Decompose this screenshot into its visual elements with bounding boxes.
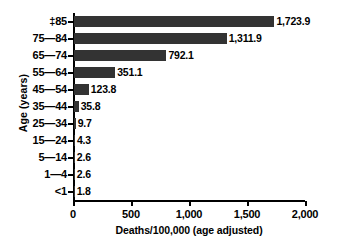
y-tick <box>68 191 73 193</box>
bar-value-label: 2.6 <box>77 149 91 166</box>
category-label: 25—34 <box>33 115 67 132</box>
y-tick <box>68 55 73 57</box>
category-label: 55—64 <box>33 64 67 81</box>
bar <box>74 50 166 61</box>
category-label: 45—54 <box>33 81 67 98</box>
category-label: ‡85 <box>49 13 67 30</box>
y-tick <box>68 106 73 108</box>
x-tick-label: 1,500 <box>234 208 261 220</box>
category-label: 65—74 <box>33 47 67 64</box>
bar <box>74 101 78 112</box>
bar <box>74 84 88 95</box>
bar <box>74 186 75 197</box>
bar-value-label: 1,723.9 <box>276 13 310 30</box>
y-axis-title: Age (years) <box>17 33 29 173</box>
y-tick <box>68 21 73 23</box>
x-tick <box>189 201 191 206</box>
bar-value-label: 1,311.9 <box>229 30 262 47</box>
bar-value-label: 1.8 <box>77 183 91 200</box>
category-label: 15—24 <box>33 132 67 149</box>
bar <box>74 135 75 146</box>
bar-value-label: 9.7 <box>78 115 92 132</box>
y-tick <box>68 38 73 40</box>
bar <box>74 152 75 163</box>
x-axis-title: Deaths/100,000 (age adjusted) <box>73 224 305 236</box>
y-tick <box>68 89 73 91</box>
x-tick <box>73 201 75 206</box>
category-label: 5—14 <box>38 149 67 166</box>
x-tick <box>247 201 249 206</box>
bar-value-label: 35.8 <box>81 98 101 115</box>
bar-chart: Age (years) ‡851,723.975—841,311.965—747… <box>0 0 344 249</box>
category-label: 1—4 <box>44 166 67 183</box>
bar-value-label: 351.1 <box>117 64 142 81</box>
x-tick <box>131 201 133 206</box>
y-tick <box>68 140 73 142</box>
bar <box>74 33 226 44</box>
bar <box>74 118 75 129</box>
bar <box>74 169 75 180</box>
bar-value-label: 4.3 <box>77 132 91 149</box>
x-tick <box>305 201 307 206</box>
category-label: <1 <box>55 183 67 200</box>
y-tick <box>68 174 73 176</box>
y-tick <box>68 72 73 74</box>
x-tick-label: 500 <box>122 208 140 220</box>
category-label: 75—84 <box>33 30 67 47</box>
plot-area: ‡851,723.975—841,311.965—74792.155—64351… <box>73 13 305 200</box>
bar-value-label: 2.6 <box>77 166 91 183</box>
x-tick-label: 2,000 <box>292 208 319 220</box>
bar <box>74 67 115 78</box>
bar-value-label: 123.8 <box>91 81 116 98</box>
bar <box>74 16 274 27</box>
x-tick-label: 1,000 <box>176 208 203 220</box>
bar-value-label: 792.1 <box>168 47 193 64</box>
y-tick <box>68 157 73 159</box>
category-label: 35—44 <box>33 98 67 115</box>
x-tick-label: 0 <box>70 208 76 220</box>
y-tick <box>68 123 73 125</box>
